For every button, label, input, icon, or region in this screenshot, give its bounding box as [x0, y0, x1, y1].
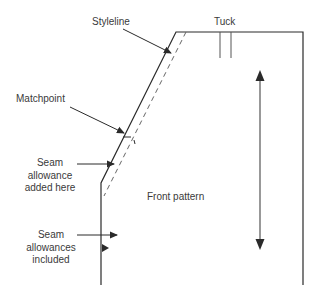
styleline-label: Styleline: [92, 16, 130, 29]
matchpoint-leader: [70, 107, 124, 133]
seam-added-line3: added here: [22, 182, 78, 195]
seam-included-line2: allowances: [22, 242, 80, 255]
pattern-outline-path: [101, 32, 303, 285]
seam-allowance-dashed-line: [104, 32, 186, 196]
seam-added-line1: Seam: [22, 157, 78, 170]
seam-included-line3: included: [22, 254, 80, 267]
matchpoint-label: Matchpoint: [16, 93, 65, 106]
grainline-arrow: [256, 70, 265, 250]
seam-added-line2: allowance: [22, 170, 78, 183]
tuck-label: Tuck: [214, 16, 235, 29]
seam-allowances-included-label: Seam allowances included: [22, 229, 80, 267]
front-pattern-label: Front pattern: [147, 191, 204, 204]
pattern-outline: [101, 32, 303, 285]
seam-included-line1: Seam: [22, 229, 80, 242]
styleline-leader: [123, 29, 171, 53]
leader-arrows: [70, 29, 171, 235]
seam-included-notch-arrow: [102, 244, 109, 252]
tuck-marks: [220, 32, 231, 58]
seam-allowance-added-label: Seam allowance added here: [22, 157, 78, 195]
